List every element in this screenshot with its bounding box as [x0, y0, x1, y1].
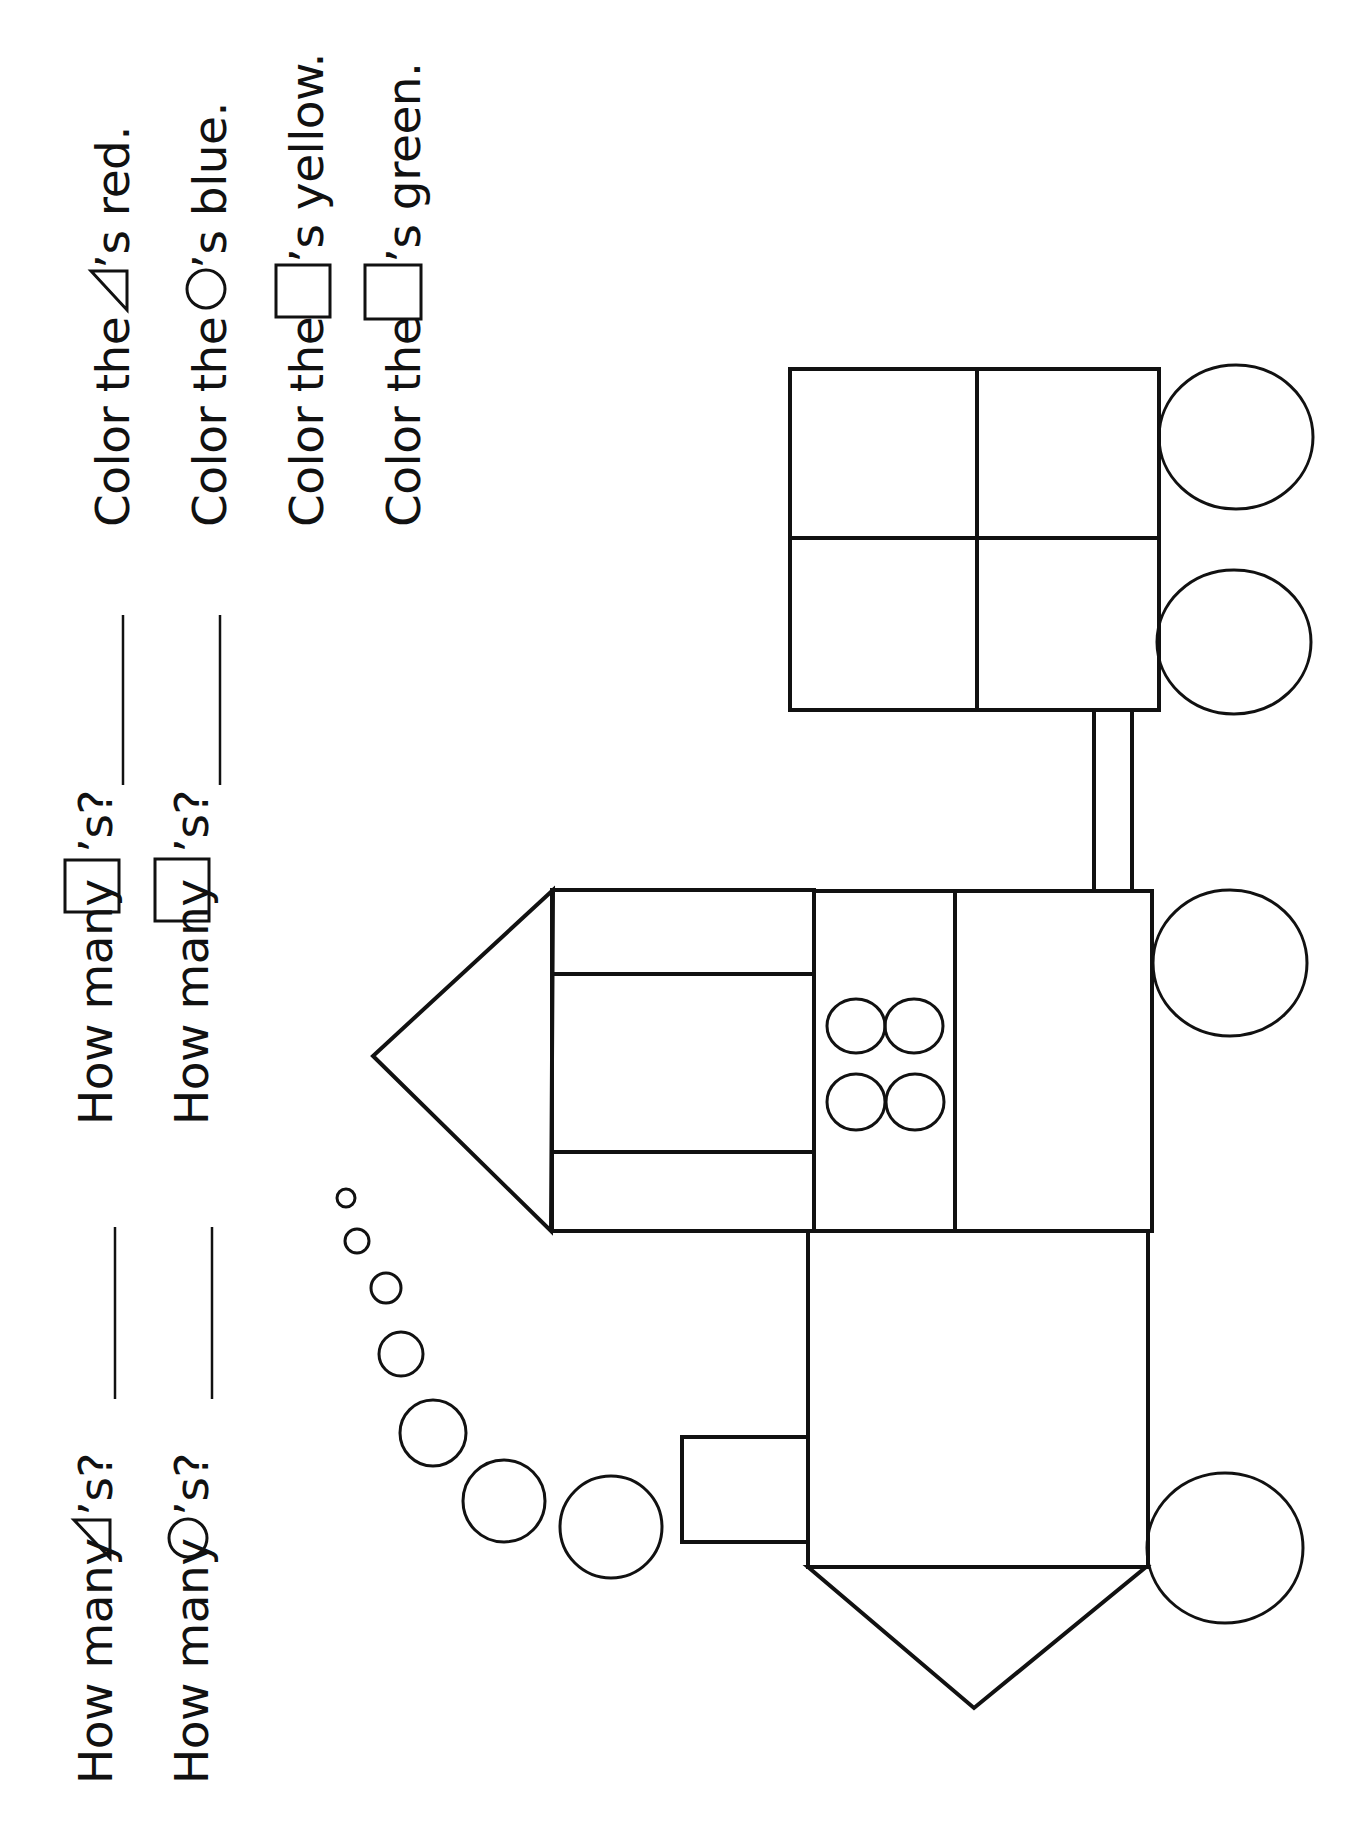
- cowcatcher-triangle[interactable]: [808, 1567, 1146, 1708]
- smoke-puff-circle[interactable]: [400, 1400, 466, 1466]
- cab-window-circle[interactable]: [827, 999, 885, 1053]
- question-label: How many: [164, 879, 219, 1125]
- smoke-puff-circle[interactable]: [371, 1273, 401, 1303]
- smoke-puff-circle[interactable]: [560, 1476, 662, 1578]
- instruction-label: Color the: [182, 317, 237, 527]
- chimney-rectangle[interactable]: [682, 1437, 808, 1542]
- train-shapes-worksheet: How many ’s? How many ’s? How many ’s? H…: [0, 0, 1361, 1827]
- coupling-rectangle[interactable]: [1094, 710, 1132, 891]
- cab-window-circle[interactable]: [827, 1074, 885, 1130]
- back-car-square-3[interactable]: [790, 538, 977, 710]
- cab: [552, 890, 1152, 1231]
- question-suffix: ’s?: [68, 790, 123, 853]
- instruction-blue: Color the ’s blue.: [182, 102, 237, 527]
- instruction-suffix: ’s green.: [376, 62, 431, 263]
- cab-rectangle-top[interactable]: [552, 890, 814, 974]
- smoke-puff-circle[interactable]: [379, 1332, 423, 1376]
- instruction-label: Color the: [279, 317, 334, 527]
- question-count-rectangles: How many ’s?: [155, 790, 219, 1125]
- question-count-circles: How many ’s?: [164, 1453, 219, 1784]
- instruction-suffix: ’s yellow.: [279, 53, 334, 263]
- wheel-circle[interactable]: [1159, 365, 1313, 509]
- cab-rectangle-middle[interactable]: [552, 974, 814, 1152]
- cab-rear-panel[interactable]: [955, 891, 1152, 1231]
- smoke-puffs: [337, 1189, 662, 1578]
- cab-rectangle-bottom[interactable]: [552, 1152, 814, 1231]
- question-label: How many: [68, 1538, 123, 1784]
- instruction-red: Color the ’s red.: [85, 126, 140, 527]
- smoke-puff-circle[interactable]: [337, 1189, 355, 1207]
- back-car: [790, 369, 1159, 710]
- square-icon: [276, 265, 330, 317]
- question-count-triangles: How many ’s?: [68, 1453, 123, 1784]
- smoke-puff-circle[interactable]: [345, 1229, 369, 1253]
- circle-icon: [187, 270, 225, 308]
- cab-roof-triangle[interactable]: [373, 890, 553, 1231]
- instruction-green: Color the ’s green.: [365, 62, 431, 527]
- train-drawing: [337, 365, 1313, 1708]
- cab-window-circle[interactable]: [885, 999, 943, 1053]
- rectangle-icon: [365, 265, 421, 319]
- instruction-suffix: ’s red.: [85, 126, 140, 269]
- instruction-suffix: ’s blue.: [182, 102, 237, 269]
- question-label: How many: [164, 1538, 219, 1784]
- wheel-circle[interactable]: [1153, 890, 1307, 1036]
- back-car-square-1[interactable]: [790, 369, 977, 538]
- instruction-yellow: Color the ’s yellow.: [276, 53, 334, 527]
- cab-window-panel[interactable]: [814, 891, 955, 1231]
- wheel-circle[interactable]: [1147, 1473, 1303, 1623]
- wheel-circle[interactable]: [1157, 570, 1311, 714]
- question-suffix: ’s?: [164, 1453, 219, 1516]
- question-count-squares: How many ’s?: [65, 790, 123, 1125]
- instruction-label: Color the: [376, 317, 431, 527]
- smoke-puff-circle[interactable]: [463, 1460, 545, 1542]
- boiler-rectangle[interactable]: [808, 1231, 1148, 1567]
- question-suffix: ’s?: [164, 790, 219, 853]
- back-car-square-4[interactable]: [977, 538, 1159, 710]
- question-suffix: ’s?: [68, 1453, 123, 1516]
- cab-window-circle[interactable]: [886, 1074, 944, 1130]
- wheels: [1147, 365, 1313, 1623]
- triangle-icon: [91, 271, 127, 310]
- instruction-label: Color the: [85, 317, 140, 527]
- question-label: How many: [68, 879, 123, 1125]
- back-car-square-2[interactable]: [977, 369, 1159, 538]
